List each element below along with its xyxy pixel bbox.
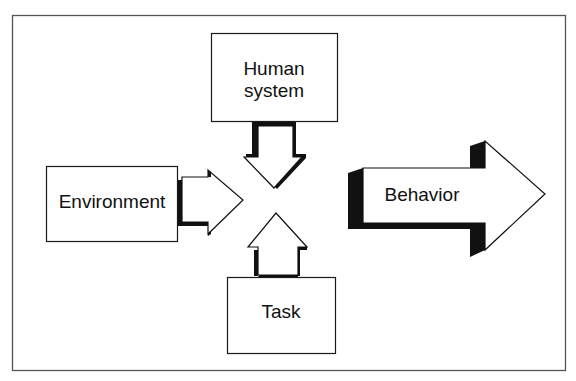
node-task: Task — [228, 278, 336, 354]
diagram-canvas: Human system Environment Task Behavior — [0, 0, 576, 381]
node-behavior-arrow: Behavior — [348, 141, 545, 257]
human-system-label-line2: system — [244, 80, 304, 101]
node-environment: Environment — [47, 167, 178, 242]
arrow-right-icon — [178, 170, 243, 236]
node-human-system: Human system — [212, 34, 338, 122]
task-label: Task — [261, 301, 301, 322]
environment-label: Environment — [59, 191, 166, 212]
arrow-up-icon — [248, 213, 307, 277]
behavior-label: Behavior — [385, 184, 461, 205]
arrow-down-icon — [244, 122, 306, 189]
human-system-label-line1: Human — [243, 58, 304, 79]
